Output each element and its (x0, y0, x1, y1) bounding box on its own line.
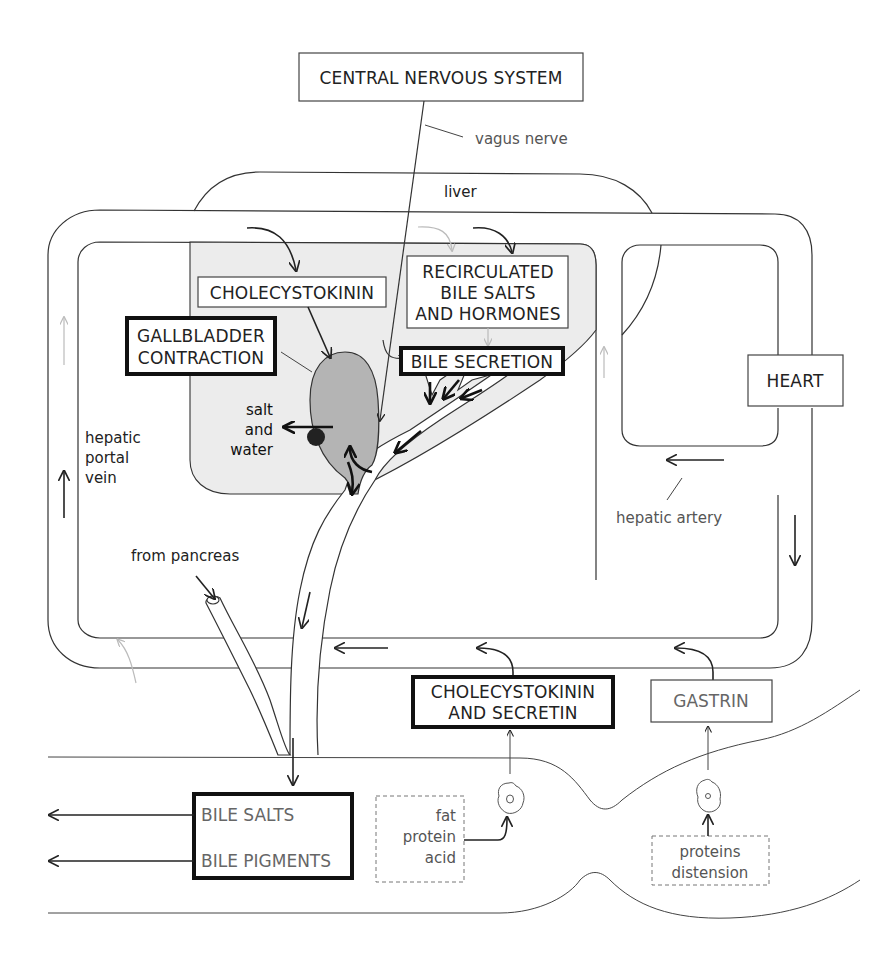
bile-secretion-label: BILE SECRETION (411, 352, 554, 372)
liver-label: liver (444, 183, 477, 201)
stimulus-protein-label: protein (403, 828, 456, 846)
bile-regulation-diagram: CENTRAL NERVOUS SYSTEM vagus nerve liver… (0, 0, 890, 962)
stimulus-proteins-label: proteins (679, 843, 740, 861)
water-label: water (230, 441, 274, 459)
vagus-nerve-label: vagus nerve (475, 130, 568, 148)
recirculated-label-2: BILE SALTS (440, 283, 535, 303)
hepatic-portal-label-2: portal (85, 449, 129, 467)
stimulus-acid-label: acid (425, 849, 456, 867)
liver-lobe-outline (194, 172, 652, 213)
bile-salts-label: BILE SALTS (201, 805, 294, 825)
recirculated-label-3: AND HORMONES (415, 304, 561, 324)
cck-secretin-label-1: CHOLECYSTOKININ (431, 682, 595, 702)
pancreas-inflow-arrow (196, 576, 214, 598)
bile-pigments-label: BILE PIGMENTS (201, 851, 331, 871)
hepatic-artery-label: hepatic artery (616, 509, 722, 527)
hepatic-portal-label-1: hepatic (85, 429, 141, 447)
gastrin-label: GASTRIN (673, 691, 749, 711)
cholecystokinin-label: CHOLECYSTOKININ (210, 283, 374, 303)
cck-secretin-label-2: AND SECRETIN (448, 703, 577, 723)
gallbladder-contraction-label-1: GALLBLADDER (137, 326, 265, 346)
absorption-site (307, 428, 325, 446)
pancreatic-duct (206, 597, 290, 755)
endocrine-cell-duodenum-icon (498, 783, 524, 814)
recirculated-label-1: RECIRCULATED (422, 262, 554, 282)
left-faint-arrow (118, 640, 136, 683)
liver-right-lobe (622, 245, 661, 335)
stimulus-distension-label: distension (672, 864, 749, 882)
heart-loop-inner (622, 245, 778, 446)
hepatic-artery-leader (667, 478, 682, 500)
and-label: and (245, 421, 273, 439)
gallbladder-contraction-label-2: CONTRACTION (138, 348, 264, 368)
stimulus-fat-label: fat (436, 807, 456, 825)
salt-label: salt (246, 401, 273, 419)
hepatic-portal-label-3: vein (85, 469, 117, 487)
duodenal-stimulus-arrow (464, 818, 507, 840)
from-pancreas-label: from pancreas (131, 547, 239, 565)
endocrine-cell-stomach-icon (697, 779, 721, 812)
heart-label: HEART (766, 371, 824, 391)
vagus-nerve-leader (425, 125, 463, 137)
cns-label: CENTRAL NERVOUS SYSTEM (319, 68, 562, 88)
